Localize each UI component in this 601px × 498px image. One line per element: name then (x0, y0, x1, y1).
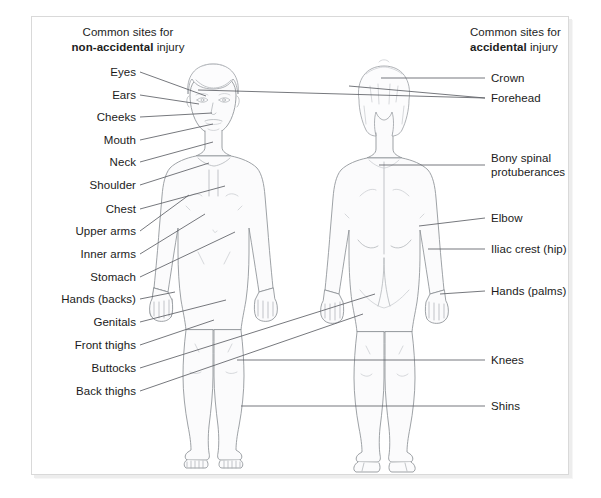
label-hands-palms: Hands (palms) (491, 285, 566, 298)
heading-right-line1: Common sites for (470, 26, 561, 38)
label-iliac-crest-hip: Iliac crest (hip) (491, 243, 567, 256)
label-neck: Neck (110, 156, 136, 169)
label-bony-spinal-line1: Bony spinal (491, 152, 551, 164)
label-chest: Chest (106, 203, 136, 216)
label-ears: Ears (112, 89, 136, 102)
label-inner-arms: Inner arms (81, 248, 136, 261)
heading-left-tail: injury (153, 41, 184, 53)
label-bony-spinal: Bony spinalprotuberances (491, 151, 565, 179)
label-back-thighs: Back thighs (76, 385, 136, 398)
label-shoulder: Shoulder (90, 179, 136, 192)
label-eyes: Eyes (110, 66, 136, 79)
label-knees: Knees (491, 354, 524, 367)
label-bony-spinal-line2: protuberances (491, 166, 565, 178)
label-genitals: Genitals (93, 316, 136, 329)
label-forehead: Forehead (491, 92, 541, 105)
label-stomach: Stomach (90, 271, 136, 284)
label-cheeks: Cheeks (97, 111, 136, 124)
label-shins: Shins (491, 400, 520, 413)
diagram-canvas: Common sites for non-accidental injury C… (0, 0, 601, 498)
label-hands-backs: Hands (backs) (61, 293, 136, 306)
heading-non-accidental: Common sites for non-accidental injury (44, 25, 212, 55)
label-buttocks: Buttocks (91, 362, 136, 375)
heading-left-bold: non-accidental (72, 41, 154, 53)
diagram-frame (31, 16, 569, 475)
heading-right-bold: accidental (470, 41, 527, 53)
heading-left-line1: Common sites for (83, 26, 174, 38)
heading-accidental: Common sites for accidental injury (470, 25, 590, 55)
label-upper-arms: Upper arms (75, 225, 136, 238)
label-crown: Crown (491, 72, 524, 85)
label-front-thighs: Front thighs (75, 339, 136, 352)
heading-right-tail: injury (527, 41, 558, 53)
label-mouth: Mouth (104, 134, 136, 147)
label-elbow: Elbow (491, 212, 523, 225)
